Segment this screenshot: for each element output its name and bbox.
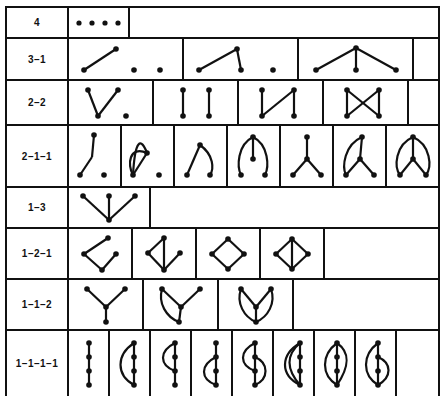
table-row: 1–1–1–1 xyxy=(7,331,438,396)
table-row: 1–2–1 xyxy=(7,229,438,280)
table-row: 2–2 xyxy=(7,81,438,126)
bowtie-crossing-icon xyxy=(329,84,403,122)
empty-cell xyxy=(414,39,438,79)
bent-edge-pair-point-icon xyxy=(72,129,118,183)
diagram-cell[interactable] xyxy=(154,81,239,124)
row-label-3-1: 3–1 xyxy=(7,39,69,79)
chevron-with-stem-icon xyxy=(136,232,192,276)
diagram-cell[interactable] xyxy=(219,280,294,329)
double-arc-star-icon xyxy=(390,129,436,183)
diagram-cell[interactable] xyxy=(151,331,192,396)
row-label-2-1-1: 2–1–1 xyxy=(7,126,69,186)
diagram-cell[interactable] xyxy=(69,8,130,37)
diagram-cell[interactable] xyxy=(175,126,228,186)
diagram-cell[interactable] xyxy=(387,126,440,186)
diamond-with-diagonal-icon xyxy=(264,232,320,276)
arc-star-left-icon xyxy=(337,129,383,183)
diagram-cell[interactable] xyxy=(299,39,414,79)
row-cells xyxy=(69,39,438,79)
chain-with-wide-lens-icon xyxy=(358,335,394,393)
row-cells xyxy=(69,280,438,329)
diagram-cell[interactable] xyxy=(261,229,325,278)
diagram-cell[interactable] xyxy=(324,81,409,124)
row-cells xyxy=(69,81,438,124)
table-row: 3–1 xyxy=(7,39,438,81)
row-label-1-1-1-1: 1–1–1–1 xyxy=(7,331,69,396)
diagram-cell[interactable] xyxy=(69,81,154,124)
empty-cell xyxy=(409,81,438,124)
empty-cell xyxy=(294,280,438,329)
y-star-two-arcs-icon xyxy=(223,283,289,327)
table-row: 4 xyxy=(7,8,438,39)
straight-chain-four-icon xyxy=(71,335,107,393)
row-label-1-1-2: 1–1–2 xyxy=(7,280,69,329)
theta-open-fan-icon xyxy=(231,129,277,183)
path-two-edges-one-point-icon xyxy=(189,42,293,76)
partition-diagram-table: 4 3–1 xyxy=(5,6,440,396)
diagram-cell[interactable] xyxy=(69,331,110,396)
diagram-cell[interactable] xyxy=(192,331,233,396)
row-label-2-2: 2–2 xyxy=(7,81,69,124)
chain-with-lower-arc-icon xyxy=(194,335,230,393)
diagram-cell[interactable] xyxy=(69,126,122,186)
y-star-one-arc-icon xyxy=(148,283,214,327)
diagram-cell[interactable] xyxy=(122,126,175,186)
bent-path-two-edges-point-icon xyxy=(74,84,148,122)
diagram-cell[interactable] xyxy=(239,81,324,124)
empty-cell xyxy=(397,331,438,396)
diagram-cell[interactable] xyxy=(315,331,356,396)
open-chevron-path-icon xyxy=(72,232,128,276)
diagram-cell[interactable] xyxy=(69,39,184,79)
diagram-cell[interactable] xyxy=(69,280,144,329)
diagram-cell[interactable] xyxy=(281,126,334,186)
downward-three-star-icon xyxy=(73,191,145,225)
zigzag-path-icon xyxy=(244,84,318,122)
star-three-edges-icon xyxy=(304,42,408,76)
empty-cell xyxy=(130,8,438,37)
open-diamond-icon xyxy=(200,232,256,276)
loop-with-point-icon xyxy=(125,129,171,183)
row-cells xyxy=(69,229,438,278)
y-star-icon xyxy=(73,283,139,327)
diagram-cell[interactable] xyxy=(228,126,281,186)
row-cells xyxy=(69,188,438,227)
curve-and-segment-icon xyxy=(178,129,224,183)
row-label-1-2-1: 1–2–1 xyxy=(7,229,69,278)
row-label-4: 4 xyxy=(7,8,69,37)
diagram-cell[interactable] xyxy=(144,280,219,329)
two-parallel-edges-icon xyxy=(159,84,233,122)
row-cells xyxy=(69,331,438,396)
row-cells xyxy=(69,126,440,186)
diagram-cell[interactable] xyxy=(184,39,299,79)
table-row: 1–3 xyxy=(7,188,438,229)
one-edge-two-points-icon xyxy=(74,42,178,76)
chain-with-double-left-arc-icon xyxy=(276,335,312,393)
row-cells xyxy=(69,8,438,37)
diagram-cell[interactable] xyxy=(197,229,261,278)
diagram-cell[interactable] xyxy=(133,229,197,278)
chain-with-left-arc-icon xyxy=(112,335,148,393)
row-label-1-3: 1–3 xyxy=(7,188,69,227)
diagram-cell[interactable] xyxy=(69,188,151,227)
diagram-cell[interactable] xyxy=(274,331,315,396)
empty-cell xyxy=(151,188,438,227)
chain-with-s-arc-icon xyxy=(235,335,271,393)
chain-with-small-arc-icon xyxy=(153,335,189,393)
three-leg-star-icon xyxy=(284,129,330,183)
diagram-cell[interactable] xyxy=(334,126,387,186)
chain-with-lens-icon xyxy=(317,335,353,393)
diagram-cell[interactable] xyxy=(356,331,397,396)
diagram-cell[interactable] xyxy=(233,331,274,396)
empty-cell xyxy=(325,229,438,278)
four-isolated-points-icon xyxy=(73,11,125,35)
figure-sheet: 4 3–1 xyxy=(0,0,446,403)
table-row: 2–1–1 xyxy=(7,126,438,188)
diagram-cell[interactable] xyxy=(110,331,151,396)
table-row: 1–1–2 xyxy=(7,280,438,331)
diagram-cell[interactable] xyxy=(69,229,133,278)
